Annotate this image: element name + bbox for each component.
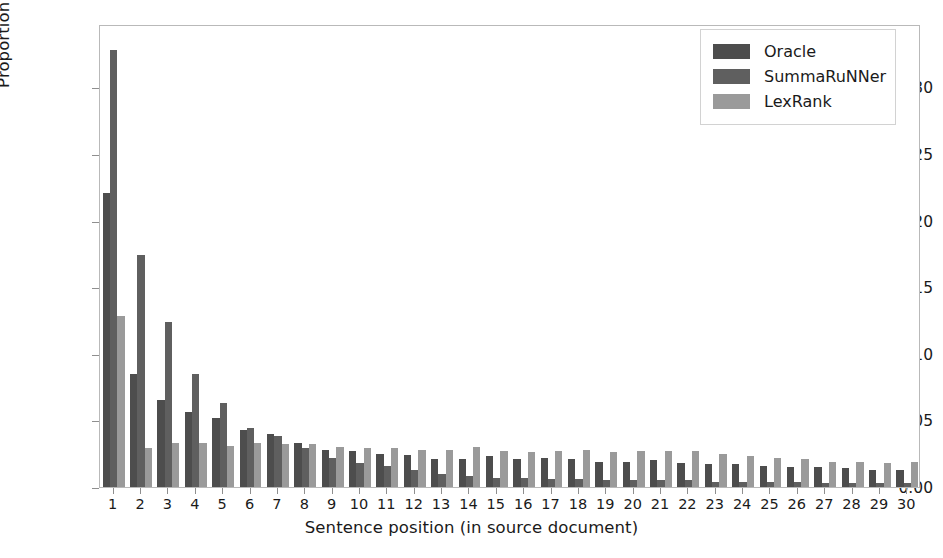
bar-summarunner-27 bbox=[822, 483, 829, 487]
bar-oracle-10 bbox=[349, 451, 356, 487]
bar-lexrank-14 bbox=[473, 447, 480, 487]
x-tick-mark bbox=[468, 488, 469, 494]
x-tick-label: 18 bbox=[569, 496, 587, 512]
bar-lexrank-5 bbox=[227, 446, 234, 487]
bar-oracle-27 bbox=[814, 467, 821, 487]
bar-lexrank-22 bbox=[692, 451, 699, 487]
bar-oracle-20 bbox=[623, 462, 630, 487]
bar-oracle-11 bbox=[376, 454, 383, 487]
x-tick-label: 10 bbox=[350, 496, 368, 512]
bar-lexrank-17 bbox=[555, 451, 562, 487]
bar-summarunner-4 bbox=[192, 374, 199, 487]
bar-group bbox=[212, 26, 234, 487]
bar-summarunner-18 bbox=[575, 479, 582, 487]
x-tick-mark bbox=[441, 488, 442, 494]
bar-lexrank-27 bbox=[829, 462, 836, 487]
x-tick-label: 17 bbox=[541, 496, 559, 512]
x-tick-label: 19 bbox=[596, 496, 614, 512]
bar-summarunner-15 bbox=[493, 478, 500, 487]
bar-group bbox=[240, 26, 262, 487]
x-tick-mark bbox=[633, 488, 634, 494]
bar-oracle-8 bbox=[294, 443, 301, 487]
x-tick-label: 16 bbox=[514, 496, 532, 512]
legend-item: SummaRuNNer bbox=[713, 64, 883, 89]
x-tick-label: 30 bbox=[897, 496, 915, 512]
bar-oracle-21 bbox=[650, 460, 657, 487]
bar-summarunner-19 bbox=[603, 480, 610, 487]
bar-oracle-2 bbox=[130, 374, 137, 487]
bar-lexrank-1 bbox=[117, 316, 124, 487]
x-tick-label: 9 bbox=[327, 496, 336, 512]
bar-lexrank-9 bbox=[336, 447, 343, 487]
bar-group bbox=[650, 26, 672, 487]
bar-group bbox=[103, 26, 125, 487]
bar-lexrank-12 bbox=[418, 450, 425, 487]
bar-oracle-30 bbox=[896, 470, 903, 487]
bar-group bbox=[595, 26, 617, 487]
x-tick-mark bbox=[523, 488, 524, 494]
legend-label: LexRank bbox=[764, 92, 832, 111]
x-tick-label: 26 bbox=[788, 496, 806, 512]
bar-group bbox=[322, 26, 344, 487]
x-tick-label: 29 bbox=[870, 496, 888, 512]
bar-summarunner-9 bbox=[329, 458, 336, 487]
x-tick-label: 3 bbox=[163, 496, 172, 512]
bar-lexrank-8 bbox=[309, 444, 316, 487]
x-tick-mark bbox=[879, 488, 880, 494]
x-tick-mark bbox=[578, 488, 579, 494]
x-tick-label: 25 bbox=[760, 496, 778, 512]
bar-group bbox=[349, 26, 371, 487]
x-tick-label: 24 bbox=[733, 496, 751, 512]
bar-lexrank-11 bbox=[391, 448, 398, 487]
x-tick-mark bbox=[250, 488, 251, 494]
bar-oracle-26 bbox=[787, 467, 794, 487]
bar-summarunner-25 bbox=[767, 482, 774, 487]
bar-group bbox=[404, 26, 426, 487]
bar-lexrank-15 bbox=[500, 451, 507, 487]
y-tick-mark bbox=[92, 88, 99, 89]
legend-item: Oracle bbox=[713, 39, 883, 64]
bar-lexrank-20 bbox=[637, 451, 644, 487]
bar-group bbox=[294, 26, 316, 487]
bar-summarunner-13 bbox=[438, 474, 445, 487]
bar-lexrank-29 bbox=[884, 463, 891, 487]
x-tick-label: 4 bbox=[190, 496, 199, 512]
bar-lexrank-7 bbox=[282, 444, 289, 487]
x-tick-mark bbox=[414, 488, 415, 494]
y-tick-mark bbox=[92, 421, 99, 422]
legend-swatch-icon bbox=[713, 94, 750, 109]
x-tick-label: 13 bbox=[432, 496, 450, 512]
bar-summarunner-20 bbox=[630, 480, 637, 487]
x-tick-label: 14 bbox=[459, 496, 477, 512]
bar-summarunner-24 bbox=[739, 482, 746, 487]
bar-lexrank-10 bbox=[364, 448, 371, 487]
x-tick-mark bbox=[222, 488, 223, 494]
bar-oracle-22 bbox=[677, 463, 684, 487]
bar-oracle-3 bbox=[157, 400, 164, 487]
bar-oracle-16 bbox=[513, 459, 520, 487]
bar-summarunner-7 bbox=[274, 436, 281, 487]
bar-oracle-24 bbox=[732, 464, 739, 487]
x-tick-label: 6 bbox=[245, 496, 254, 512]
x-tick-label: 11 bbox=[377, 496, 395, 512]
bar-group bbox=[130, 26, 152, 487]
y-tick-mark bbox=[92, 288, 99, 289]
legend-swatch-icon bbox=[713, 69, 750, 84]
x-tick-label: 8 bbox=[300, 496, 309, 512]
x-axis-label: Sentence position (in source document) bbox=[0, 518, 943, 537]
bar-lexrank-6 bbox=[254, 443, 261, 487]
bar-summarunner-23 bbox=[712, 482, 719, 487]
legend-swatch-icon bbox=[713, 44, 750, 59]
bar-oracle-29 bbox=[869, 470, 876, 487]
y-tick-mark bbox=[92, 155, 99, 156]
legend-label: SummaRuNNer bbox=[764, 67, 886, 86]
bar-summarunner-17 bbox=[548, 479, 555, 487]
x-tick-mark bbox=[304, 488, 305, 494]
bar-oracle-1 bbox=[103, 193, 110, 487]
bar-oracle-5 bbox=[212, 418, 219, 487]
bar-oracle-14 bbox=[459, 459, 466, 487]
bar-summarunner-11 bbox=[384, 466, 391, 487]
bar-summarunner-3 bbox=[165, 322, 172, 487]
bar-group bbox=[459, 26, 481, 487]
bar-oracle-13 bbox=[431, 459, 438, 487]
